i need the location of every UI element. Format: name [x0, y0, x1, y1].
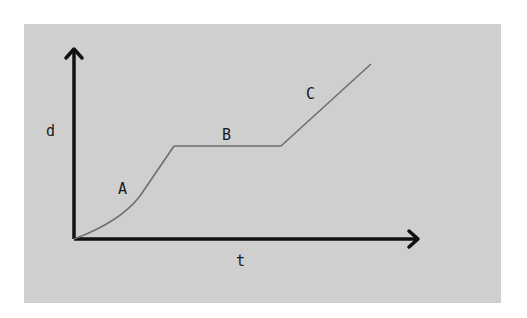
x-axis-label: t [236, 252, 245, 270]
segment-c-label: C [306, 85, 315, 103]
distance-time-graph: d t A B C [0, 0, 527, 318]
segment-a-label: A [118, 180, 127, 198]
y-axis-label: d [46, 122, 55, 140]
segment-b-label: B [222, 126, 231, 144]
segment-c-line [281, 64, 371, 146]
